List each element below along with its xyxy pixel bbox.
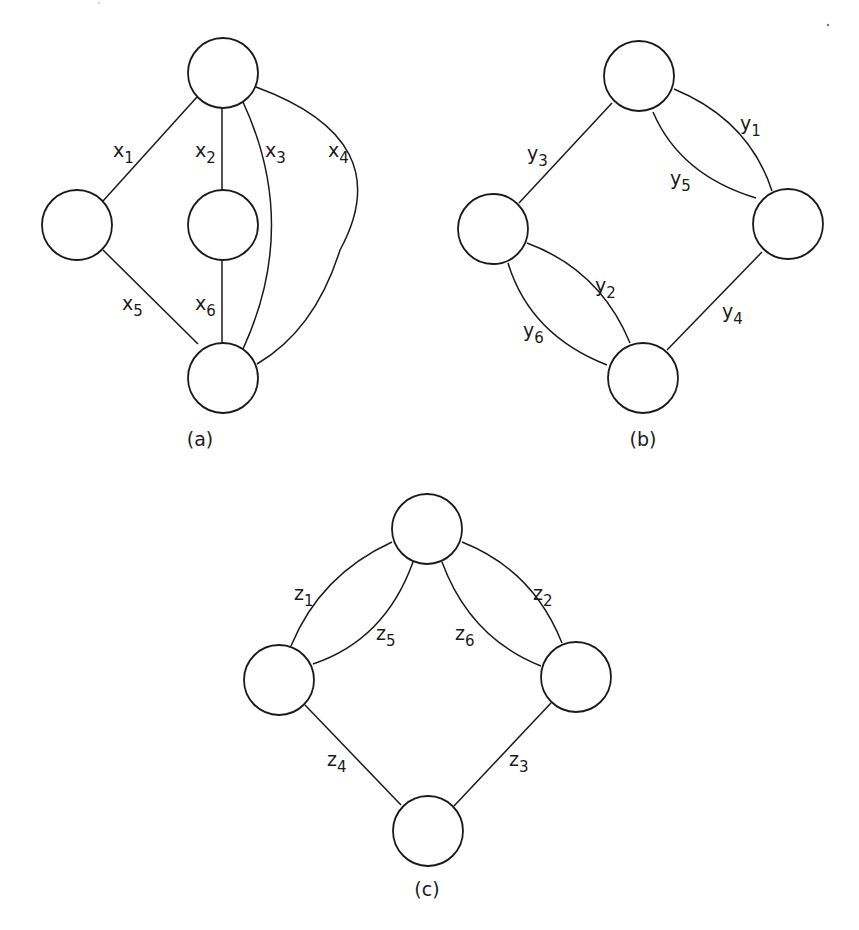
node-c-top bbox=[392, 494, 462, 564]
edge-label-subscript: 1 bbox=[124, 149, 134, 167]
edge-label-subscript: 1 bbox=[751, 122, 761, 140]
edge-label-subscript: 4 bbox=[733, 310, 743, 328]
edge-label-y1: y1 bbox=[740, 112, 761, 140]
edge-x5 bbox=[103, 250, 198, 344]
edge-label-subscript: 2 bbox=[543, 592, 553, 610]
panel-caption-a: (a) bbox=[187, 428, 213, 450]
graph-figure: x1x2x3x4x5x6(a) y1y5y3y2y6y4(b) z1z5z6z2… bbox=[0, 0, 859, 930]
panel-c-graph: z1z5z6z2z4z3(c) bbox=[244, 494, 611, 900]
edge-label-variable: z bbox=[376, 622, 386, 644]
edge-label-subscript: 5 bbox=[681, 177, 691, 195]
edge-z4 bbox=[305, 705, 401, 805]
edge-label-subscript: 6 bbox=[465, 632, 475, 650]
edge-label-subscript: 1 bbox=[304, 592, 314, 610]
edge-label-subscript: 2 bbox=[206, 149, 216, 167]
edge-label-subscript: 4 bbox=[339, 149, 349, 167]
edge-label-variable: x bbox=[122, 292, 133, 314]
node-c-right bbox=[541, 642, 611, 712]
edge-label-z3: z3 bbox=[509, 748, 529, 776]
scan-speck bbox=[827, 24, 829, 26]
edge-label-variable: x bbox=[113, 139, 124, 161]
edge-label-variable: z bbox=[327, 748, 337, 770]
edge-label-z2: z2 bbox=[533, 582, 553, 610]
edge-label-variable: z bbox=[455, 622, 465, 644]
edge-label-subscript: 6 bbox=[206, 302, 216, 320]
edge-label-variable: x bbox=[195, 139, 206, 161]
node-a-left bbox=[42, 190, 112, 260]
node-a-top bbox=[188, 38, 258, 108]
edge-label-y6: y6 bbox=[523, 319, 544, 347]
edge-z6 bbox=[442, 562, 541, 666]
edge-label-variable: z bbox=[294, 582, 304, 604]
edge-y1 bbox=[674, 89, 772, 191]
edge-label-z6: z6 bbox=[455, 622, 475, 650]
edge-label-z1: z1 bbox=[294, 582, 314, 610]
edge-label-variable: x bbox=[328, 139, 339, 161]
edge-label-variable: y bbox=[670, 167, 681, 189]
edge-label-subscript: 4 bbox=[337, 758, 347, 776]
edge-label-y4: y4 bbox=[722, 300, 743, 328]
panel-caption-c: (c) bbox=[414, 878, 439, 900]
edge-label-variable: y bbox=[523, 319, 534, 341]
edge-label-variable: x bbox=[195, 292, 206, 314]
node-c-left bbox=[244, 645, 314, 715]
node-b-bottom bbox=[608, 343, 678, 413]
node-b-top bbox=[604, 41, 674, 111]
edge-label-subscript: 5 bbox=[133, 302, 143, 320]
panel-caption-b: (b) bbox=[630, 428, 657, 450]
edge-label-variable: z bbox=[509, 748, 519, 770]
edge-label-subscript: 2 bbox=[606, 284, 616, 302]
edge-label-x3: x3 bbox=[265, 139, 286, 167]
edge-label-subscript: 5 bbox=[386, 632, 396, 650]
edge-z3 bbox=[454, 703, 551, 806]
panel-a-graph: x1x2x3x4x5x6(a) bbox=[42, 38, 358, 450]
edge-label-y5: y5 bbox=[670, 167, 691, 195]
node-b-right bbox=[753, 189, 823, 259]
scan-artifacts bbox=[827, 24, 829, 26]
edge-label-x4: x4 bbox=[328, 139, 349, 167]
edge-label-variable: y bbox=[722, 300, 733, 322]
node-c-bottom bbox=[393, 796, 463, 866]
edge-label-x5: x5 bbox=[122, 292, 143, 320]
edge-label-variable: y bbox=[740, 112, 751, 134]
edge-label-variable: y bbox=[527, 142, 538, 164]
edge-label-x6: x6 bbox=[195, 292, 216, 320]
edge-label-variable: z bbox=[533, 582, 543, 604]
node-a-bottom bbox=[188, 343, 258, 413]
edge-label-x1: x1 bbox=[113, 139, 134, 167]
edge-label-subscript: 3 bbox=[538, 152, 548, 170]
node-a-middle bbox=[188, 190, 258, 260]
edge-label-variable: y bbox=[595, 274, 606, 296]
edge-label-z5: z5 bbox=[376, 622, 396, 650]
edge-label-subscript: 6 bbox=[534, 329, 544, 347]
node-b-left bbox=[458, 194, 528, 264]
edge-label-y3: y3 bbox=[527, 142, 548, 170]
edge-label-y2: y2 bbox=[595, 274, 616, 302]
edge-label-subscript: 3 bbox=[519, 758, 529, 776]
edge-label-variable: x bbox=[265, 139, 276, 161]
edge-z5 bbox=[313, 562, 413, 664]
edge-label-subscript: 3 bbox=[276, 149, 286, 167]
edge-label-z4: z4 bbox=[327, 748, 347, 776]
edge-y6 bbox=[508, 263, 607, 365]
edge-y4 bbox=[667, 252, 762, 350]
edge-label-x2: x2 bbox=[195, 139, 216, 167]
panel-b-graph: y1y5y3y2y6y4(b) bbox=[458, 41, 823, 450]
